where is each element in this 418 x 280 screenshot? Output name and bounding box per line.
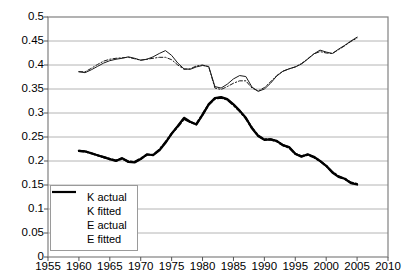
y-tick-label: 0.35 [22,83,44,95]
series-line-e-fitted [79,98,357,184]
legend-item: E actual [56,218,132,232]
legend-label: K fitted [87,206,121,217]
x-tick-label: 2010 [375,261,401,273]
legend-item: E fitted [56,232,132,246]
x-axis-tick-labels: 1955196019651970197519801985199019952000… [0,261,418,279]
legend-swatch-icon [56,205,82,217]
x-tick-label: 1975 [159,261,185,273]
legend-item: K fitted [56,204,132,218]
x-tick-label: 1965 [97,261,123,273]
legend-label: K actual [87,192,127,203]
y-tick-label: 0.2 [28,155,44,167]
chart-legend: K actualK fittedE actualE fitted [50,185,138,251]
y-tick-label: 0.05 [22,227,44,239]
x-tick-label: 1995 [282,261,308,273]
y-axis-tick-labels: 00.050.10.150.20.250.30.350.40.450.5 [0,0,44,280]
x-tick-label: 1990 [252,261,278,273]
x-tick-label: 1970 [128,261,154,273]
legend-swatch-icon [56,233,82,245]
y-tick-label: 0.4 [28,59,44,71]
y-tick-label: 0.1 [28,203,44,215]
x-tick-label: 1980 [190,261,216,273]
x-tick-label: 1985 [221,261,247,273]
x-tick-label: 1960 [66,261,92,273]
x-tick-label: 1955 [35,261,61,273]
legend-label: E fitted [87,234,121,245]
chart-container: 00.050.10.150.20.250.30.350.40.450.5 195… [0,0,418,280]
y-tick-label: 0.3 [28,107,44,119]
y-tick-label: 0.15 [22,179,44,191]
x-tick-label: 2000 [313,261,339,273]
legend-swatch-icon [56,219,82,231]
series-line-e-actual [79,97,357,184]
y-tick-label: 0.45 [22,35,44,47]
y-tick-label: 0.5 [28,11,44,23]
y-tick-label: 0.25 [22,131,44,143]
series-line-k-actual [79,37,357,91]
x-tick-label: 2005 [344,261,370,273]
legend-label: E actual [87,220,127,231]
